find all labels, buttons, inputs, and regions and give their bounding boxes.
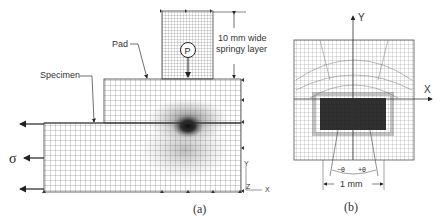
theta-negative: −θ bbox=[337, 166, 345, 173]
figure-b: Y X −θ +θ 1 mm (b) bbox=[294, 12, 432, 214]
axis-a-z: Z bbox=[246, 183, 251, 190]
axis-b-y: Y bbox=[358, 12, 365, 23]
figure-canvas: P 10 mm wide springy layer Pad Specimen … bbox=[0, 0, 440, 221]
springy-layer-label-2: springy layer bbox=[216, 44, 267, 54]
pad-label: Pad bbox=[112, 39, 128, 49]
right-supports bbox=[241, 78, 244, 193]
dimension-label: 1 mm bbox=[340, 179, 363, 189]
axis-a-x: X bbox=[265, 186, 270, 193]
figure-a: P 10 mm wide springy layer Pad Specimen … bbox=[9, 9, 270, 216]
caption-b: (b) bbox=[344, 200, 358, 214]
caption-a: (a) bbox=[193, 202, 206, 216]
axis-b-x: X bbox=[424, 84, 431, 95]
contact-dense-mesh bbox=[172, 114, 204, 138]
springy-layer-label-1: 10 mm wide bbox=[218, 33, 267, 43]
theta-positive: +θ bbox=[358, 166, 366, 173]
axis-a-y: Y bbox=[244, 160, 249, 167]
stress-label: σ bbox=[9, 151, 17, 166]
specimen-label: Specimen bbox=[40, 70, 80, 80]
load-label: P bbox=[185, 46, 191, 56]
